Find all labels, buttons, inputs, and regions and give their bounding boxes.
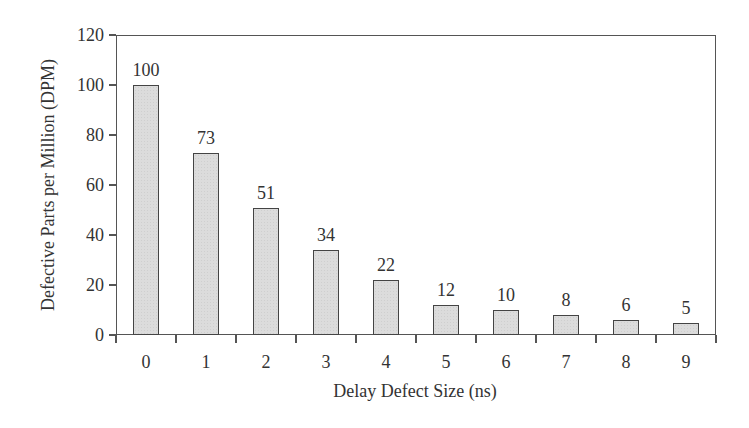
y-tick [109, 34, 116, 35]
x-tick [595, 335, 596, 343]
x-tick [715, 335, 716, 343]
bar-3 [313, 250, 339, 335]
bar-value-label: 12 [421, 280, 471, 300]
y-tick [109, 234, 116, 235]
y-tick-label: 0 [64, 326, 104, 344]
y-tick-label: 40 [64, 226, 104, 244]
x-tick [115, 335, 116, 343]
bar-value-label: 8 [541, 290, 591, 310]
x-tick-label: 4 [371, 352, 401, 372]
bar-value-label: 73 [181, 128, 231, 148]
x-tick-label: 0 [131, 352, 161, 372]
bar-4 [373, 280, 399, 335]
y-tick-label: 60 [64, 176, 104, 194]
bar-value-label: 100 [121, 60, 171, 80]
x-tick [355, 335, 356, 343]
y-tick [109, 184, 116, 185]
x-tick-label: 3 [311, 352, 341, 372]
bar-5 [433, 305, 459, 335]
x-tick [175, 335, 176, 343]
bar-7 [553, 315, 579, 335]
x-tick [655, 335, 656, 343]
bar-chart: 020406080100120 0123456789 1007351342212… [0, 0, 749, 428]
y-axis-title: Defective Parts per Million (DPM) [37, 25, 59, 345]
y-tick [109, 284, 116, 285]
x-axis-title: Delay Defect Size (ns) [280, 380, 550, 402]
y-tick [109, 134, 116, 135]
y-tick [109, 84, 116, 85]
bar-8 [613, 320, 639, 335]
x-tick-label: 5 [431, 352, 461, 372]
x-tick [295, 335, 296, 343]
x-tick-label: 8 [611, 352, 641, 372]
bar-value-label: 5 [661, 298, 711, 318]
bar-value-label: 22 [361, 255, 411, 275]
bar-2 [253, 208, 279, 336]
y-tick-label: 20 [64, 276, 104, 294]
bar-6 [493, 310, 519, 335]
x-tick-label: 2 [251, 352, 281, 372]
bar-0 [133, 85, 159, 335]
y-tick-label: 120 [64, 26, 104, 44]
bar-value-label: 6 [601, 295, 651, 315]
x-tick [475, 335, 476, 343]
bar-value-label: 34 [301, 225, 351, 245]
x-tick [535, 335, 536, 343]
x-tick-label: 7 [551, 352, 581, 372]
x-tick-label: 6 [491, 352, 521, 372]
bar-value-label: 51 [241, 183, 291, 203]
bar-value-label: 10 [481, 285, 531, 305]
bar-9 [673, 323, 699, 336]
x-tick-label: 1 [191, 352, 221, 372]
x-tick [235, 335, 236, 343]
y-tick-label: 80 [64, 126, 104, 144]
x-tick-label: 9 [671, 352, 701, 372]
x-tick [415, 335, 416, 343]
y-tick-label: 100 [64, 76, 104, 94]
bar-1 [193, 153, 219, 336]
